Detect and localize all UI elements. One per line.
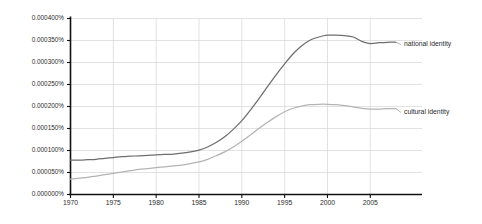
data-series (71, 35, 397, 179)
chart-canvas: 0.000400%0.000350%0.000300%0.000250%0.00… (0, 0, 482, 224)
y-axis-tick-label: 0.000250% (32, 80, 65, 87)
y-axis-tick-label: 0.000400% (32, 14, 65, 21)
x-axis-tick-label: 1975 (106, 199, 121, 206)
x-axis-tick-label: 2000 (320, 199, 335, 206)
series-labels: national identitycultural identity (396, 40, 452, 116)
y-axis-tick-labels: 0.000400%0.000350%0.000300%0.000250%0.00… (32, 14, 65, 197)
gridlines (71, 19, 423, 195)
x-axis-tick-label: 1990 (234, 199, 249, 206)
legend-leader-line-national-identity (396, 42, 401, 44)
y-axis-tick-label: 0.000150% (32, 124, 65, 131)
series-label-cultural-identity: cultural identity (404, 108, 450, 116)
y-axis-tick-label: 0.000100% (32, 146, 65, 153)
legend-leader-line-cultural-identity (396, 109, 401, 113)
series-label-national-identity: national identity (404, 40, 452, 48)
x-axis-tick-labels: 19701975198019851990199520002005 (63, 199, 378, 206)
y-axis-tick-label: 0.000200% (32, 102, 65, 109)
y-axis-tick-label: 0.000300% (32, 58, 65, 65)
y-axis-tick-label: 0.000000% (32, 190, 65, 197)
x-axis-tick-label: 1980 (149, 199, 164, 206)
x-axis-tick-label: 2005 (363, 199, 378, 206)
ngram-chart: 0.000400%0.000350%0.000300%0.000250%0.00… (0, 0, 482, 224)
x-axis-tick-label: 1985 (191, 199, 206, 206)
y-axis-tick-label: 0.000050% (32, 168, 65, 175)
y-axis-tick-label: 0.000350% (32, 36, 65, 43)
series-line-cultural-identity (71, 104, 397, 179)
x-axis-tick-label: 1995 (277, 199, 292, 206)
x-axis-tick-label: 1970 (63, 199, 78, 206)
series-line-national-identity (71, 35, 397, 160)
